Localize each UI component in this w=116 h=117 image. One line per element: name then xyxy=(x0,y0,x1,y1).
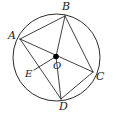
label-b: B xyxy=(62,1,70,12)
label-c: C xyxy=(96,71,104,82)
label-d: D xyxy=(59,101,68,112)
label-o: O xyxy=(53,61,61,71)
geometry-canvas xyxy=(0,0,116,117)
label-e: E xyxy=(25,69,32,79)
center-point-group xyxy=(53,54,59,60)
geometry-figure: A B C D E O xyxy=(0,0,116,117)
label-a: A xyxy=(8,30,16,41)
center-point-o xyxy=(53,54,59,60)
